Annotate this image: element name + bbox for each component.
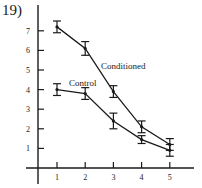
x-tick-label: 1 [55, 173, 59, 182]
data-point [55, 88, 58, 91]
y-tick-label: 4 [26, 86, 30, 95]
data-point [168, 149, 171, 152]
data-point [112, 90, 115, 93]
chart-canvas: 123456712345ConditionedControl [0, 0, 202, 188]
data-point [140, 138, 143, 141]
y-tick-label: 6 [26, 46, 30, 55]
series-label-control: Control [69, 78, 97, 88]
y-tick-label: 2 [26, 125, 30, 134]
y-tick-label: 5 [26, 66, 30, 75]
data-point [84, 47, 87, 50]
y-tick-label: 3 [26, 105, 30, 114]
series-label-conditioned: Conditioned [101, 61, 146, 71]
y-tick-label: 1 [26, 144, 30, 153]
data-point [84, 92, 87, 95]
data-point [140, 125, 143, 128]
x-tick-label: 5 [168, 173, 172, 182]
x-tick-label: 3 [111, 173, 115, 182]
data-point [112, 119, 115, 122]
data-point [55, 25, 58, 28]
x-tick-label: 4 [140, 173, 144, 182]
line-chart: 19) 123456712345ConditionedControl [0, 0, 202, 188]
x-tick-label: 2 [83, 173, 87, 182]
y-tick-label: 7 [26, 27, 30, 36]
